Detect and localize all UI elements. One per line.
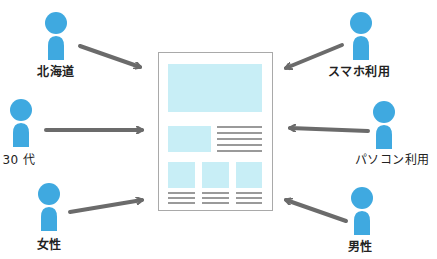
text-line <box>236 192 262 194</box>
segment-label-hokkaido: 北海道 <box>37 62 75 79</box>
text-line <box>217 132 262 134</box>
text-line <box>217 144 262 146</box>
segment-diagram: 北海道 30 代 女性 スマホ利用 パソコン利用 男性 <box>0 0 437 259</box>
person-icon <box>349 12 373 60</box>
text-line <box>168 202 195 204</box>
text-line <box>217 126 262 128</box>
segment-label-smartphone: スマホ利用 <box>328 62 391 79</box>
arrow-hokkaido <box>80 46 140 67</box>
web-page-wireframe-icon <box>158 52 273 211</box>
person-icon <box>372 101 396 149</box>
person-icon <box>44 12 68 60</box>
arrow-male <box>286 200 346 221</box>
thumb-block-3 <box>236 162 262 188</box>
text-line <box>168 197 195 199</box>
thumb-block-2 <box>202 162 229 188</box>
person-icon <box>37 183 61 231</box>
hero-image-block <box>168 64 262 112</box>
text-line <box>202 202 229 204</box>
text-line <box>168 192 195 194</box>
thumb-block-1 <box>168 162 195 188</box>
text-line <box>202 197 229 199</box>
text-line <box>236 197 262 199</box>
text-line <box>202 192 229 194</box>
text-line <box>217 138 262 140</box>
segment-label-male: 男性 <box>348 237 373 254</box>
person-icon <box>9 99 33 147</box>
side-image-block <box>168 126 211 152</box>
text-line <box>236 202 262 204</box>
segment-label-pc: パソコン利用 <box>355 150 430 167</box>
arrow-pc <box>290 128 368 131</box>
person-icon <box>350 187 374 235</box>
text-line <box>217 150 262 152</box>
arrow-female <box>70 200 142 212</box>
segment-label-female: 女性 <box>37 235 62 252</box>
segment-label-30s: 30 代 <box>2 150 35 167</box>
